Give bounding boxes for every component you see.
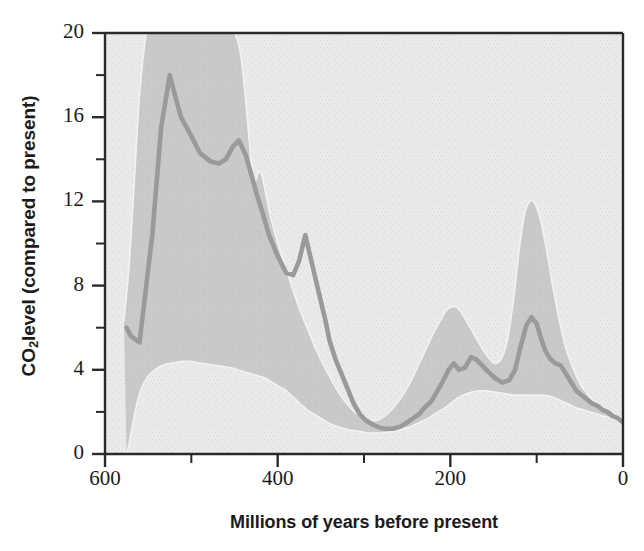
plot-area [0,0,644,551]
co2-level-chart: CO2 level (compared to present) 04812162… [0,0,644,551]
